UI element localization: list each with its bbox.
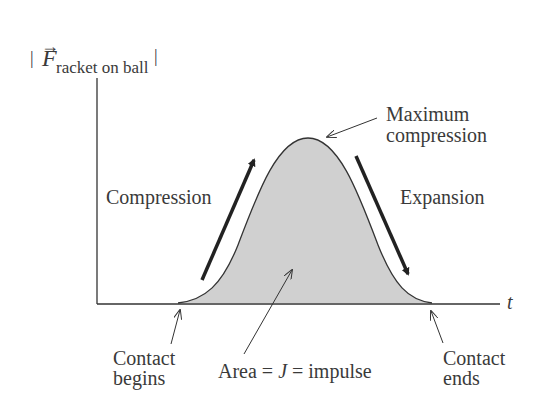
- contact-ends-pointer-icon: [431, 311, 443, 343]
- expansion-label: Expansion: [400, 187, 484, 207]
- contact-begins-label: Contact begins: [113, 348, 175, 388]
- x-axis-label: t: [507, 292, 513, 312]
- force-symbol: F: [42, 48, 57, 68]
- contact-ends-label: Contact ends: [443, 348, 505, 388]
- magnitude-bar-left: |: [30, 48, 34, 68]
- impulse-symbol: J: [278, 360, 287, 382]
- area-prefix: Area =: [218, 360, 278, 382]
- max-compression-pointer-icon: [327, 118, 377, 137]
- contact-begins-line2: begins: [113, 368, 175, 388]
- contact-begins-line1: Contact: [113, 348, 175, 368]
- max-compression-line2: compression: [386, 125, 487, 146]
- contact-ends-line1: Contact: [443, 348, 505, 368]
- contact-begins-pointer-icon: [171, 310, 180, 344]
- force-subscript: racket on ball: [56, 58, 149, 78]
- contact-ends-line2: ends: [443, 368, 505, 388]
- max-compression-label: Maximum compression: [386, 104, 487, 146]
- area-impulse-label: Area = J = impulse: [218, 361, 372, 381]
- area-suffix: = impulse: [287, 360, 372, 382]
- compression-label: Compression: [106, 187, 212, 207]
- max-compression-line1: Maximum: [386, 104, 487, 125]
- magnitude-bar-right: |: [154, 46, 158, 66]
